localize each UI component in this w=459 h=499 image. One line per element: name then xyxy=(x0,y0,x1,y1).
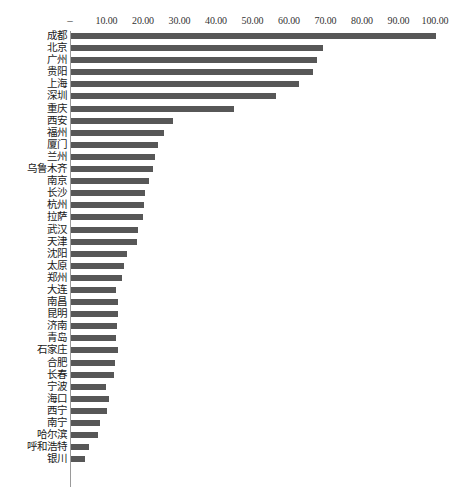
bar xyxy=(71,93,276,99)
category-label: 杭州 xyxy=(1,199,67,212)
bar-row: 广州 xyxy=(0,55,459,67)
bar-row: 石家庄 xyxy=(0,345,459,357)
category-label: 西宁 xyxy=(1,405,67,418)
category-label: 北京 xyxy=(1,42,67,55)
bar-row: 杭州 xyxy=(0,200,459,212)
bar xyxy=(71,118,173,124)
bar-row: 青岛 xyxy=(0,333,459,345)
category-label: 石家庄 xyxy=(1,344,67,357)
bar-row: 西宁 xyxy=(0,406,459,418)
x-axis-tick-20: 20.00 xyxy=(132,14,154,27)
bar-row: 郑州 xyxy=(0,273,459,285)
x-axis-tick-60: 60.00 xyxy=(278,14,300,27)
bar-row: 北京 xyxy=(0,43,459,55)
bar-row: 长沙 xyxy=(0,188,459,200)
bar xyxy=(71,299,118,305)
bar xyxy=(71,287,116,293)
bar-row: 长春 xyxy=(0,370,459,382)
bar-row: 南昌 xyxy=(0,297,459,309)
bar xyxy=(71,420,100,426)
category-label: 沈阳 xyxy=(1,248,67,261)
category-label: 深圳 xyxy=(1,90,67,103)
bar-row: 深圳 xyxy=(0,91,459,103)
bar-row: 天津 xyxy=(0,237,459,249)
x-axis-tick-10: 10.00 xyxy=(95,14,117,27)
bar-row: 西安 xyxy=(0,116,459,128)
bar xyxy=(71,396,109,402)
category-label: 南京 xyxy=(1,175,67,188)
bar xyxy=(71,323,117,329)
bar-row: 南京 xyxy=(0,176,459,188)
category-label: 青岛 xyxy=(1,332,67,345)
category-label: 宁波 xyxy=(1,381,67,394)
bar xyxy=(71,81,299,87)
bar-row: 银川 xyxy=(0,454,459,466)
bar-row: 福州 xyxy=(0,128,459,140)
bar-row: 宁波 xyxy=(0,382,459,394)
bar xyxy=(71,69,313,75)
category-label: 南宁 xyxy=(1,417,67,430)
x-axis-tick-50: 50.00 xyxy=(241,14,263,27)
bar xyxy=(71,456,85,462)
bar-row: 海口 xyxy=(0,394,459,406)
bar-row: 重庆 xyxy=(0,104,459,116)
bar xyxy=(71,57,317,63)
category-label: 武汉 xyxy=(1,224,67,237)
category-label: 乌鲁木齐 xyxy=(1,163,67,176)
category-label: 南昌 xyxy=(1,296,67,309)
bar xyxy=(71,142,158,148)
category-label: 上海 xyxy=(1,78,67,91)
category-label: 呼和浩特 xyxy=(1,441,67,454)
x-axis-tick-labels: –10.0020.0030.0040.0050.0060.0070.0080.0… xyxy=(0,14,459,30)
bar xyxy=(71,45,323,51)
bar-row: 呼和浩特 xyxy=(0,442,459,454)
plot-area: 成都北京广州贵阳上海深圳重庆西安福州厦门兰州乌鲁木齐南京长沙杭州拉萨武汉天津沈阳… xyxy=(0,31,459,493)
bar-row: 贵阳 xyxy=(0,67,459,79)
bar xyxy=(71,106,234,112)
bar xyxy=(71,372,114,378)
category-label: 银川 xyxy=(1,453,67,466)
x-axis-tick-30: 30.00 xyxy=(168,14,190,27)
bar xyxy=(71,444,89,450)
bar xyxy=(71,202,144,208)
category-label: 昆明 xyxy=(1,308,67,321)
bar xyxy=(71,178,149,184)
bar-row: 南宁 xyxy=(0,418,459,430)
category-label: 济南 xyxy=(1,320,67,333)
category-label: 哈尔滨 xyxy=(1,429,67,442)
category-label: 重庆 xyxy=(1,103,67,116)
bar-row: 乌鲁木齐 xyxy=(0,164,459,176)
bar-row: 合肥 xyxy=(0,358,459,370)
bar-row: 大连 xyxy=(0,285,459,297)
bar xyxy=(71,190,145,196)
bar-row: 厦门 xyxy=(0,140,459,152)
category-label: 贵阳 xyxy=(1,66,67,79)
bar xyxy=(71,275,122,281)
x-axis-tick-100: 100.00 xyxy=(422,14,449,27)
category-label: 广州 xyxy=(1,54,67,67)
bar-row: 拉萨 xyxy=(0,212,459,224)
bar xyxy=(71,239,137,245)
bar xyxy=(71,311,118,317)
horizontal-bar-chart: –10.0020.0030.0040.0050.0060.0070.0080.0… xyxy=(0,0,459,499)
category-label: 郑州 xyxy=(1,272,67,285)
bar-row: 济南 xyxy=(0,321,459,333)
category-label: 拉萨 xyxy=(1,211,67,224)
category-label: 太原 xyxy=(1,260,67,273)
x-axis-tick-90: 90.00 xyxy=(387,14,409,27)
category-label: 成都 xyxy=(1,30,67,43)
category-label: 天津 xyxy=(1,236,67,249)
bar xyxy=(71,33,436,39)
bar-row: 上海 xyxy=(0,79,459,91)
x-axis-tick-80: 80.00 xyxy=(351,14,373,27)
x-axis-tick-40: 40.00 xyxy=(205,14,227,27)
bar-row: 哈尔滨 xyxy=(0,430,459,442)
bar-row: 兰州 xyxy=(0,152,459,164)
bar xyxy=(71,335,116,341)
bar xyxy=(71,408,107,414)
bar xyxy=(71,166,153,172)
category-label: 厦门 xyxy=(1,139,67,152)
bar xyxy=(71,214,143,220)
category-label: 海口 xyxy=(1,393,67,406)
category-label: 西安 xyxy=(1,115,67,128)
